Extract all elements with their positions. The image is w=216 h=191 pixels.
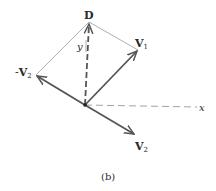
vector-negV2 bbox=[37, 76, 85, 105]
figure-caption: (b) bbox=[101, 171, 115, 182]
x-axis-dashed bbox=[85, 105, 197, 107]
label-y-axis: y bbox=[76, 41, 83, 52]
label-D: D bbox=[84, 9, 94, 22]
vector-diagram: D V1 -V2 V2 x y (b) bbox=[0, 0, 216, 191]
label-x-axis: x bbox=[199, 102, 205, 113]
label-negV2: -V2 bbox=[15, 66, 32, 80]
origin-point bbox=[83, 103, 87, 107]
vector-V2 bbox=[85, 105, 134, 134]
thin-line-D-to-V1 bbox=[89, 22, 138, 50]
vector-D-dashed bbox=[85, 24, 89, 105]
label-V2: V2 bbox=[134, 140, 148, 154]
label-V1: V1 bbox=[134, 37, 148, 51]
vector-V1 bbox=[85, 51, 137, 105]
